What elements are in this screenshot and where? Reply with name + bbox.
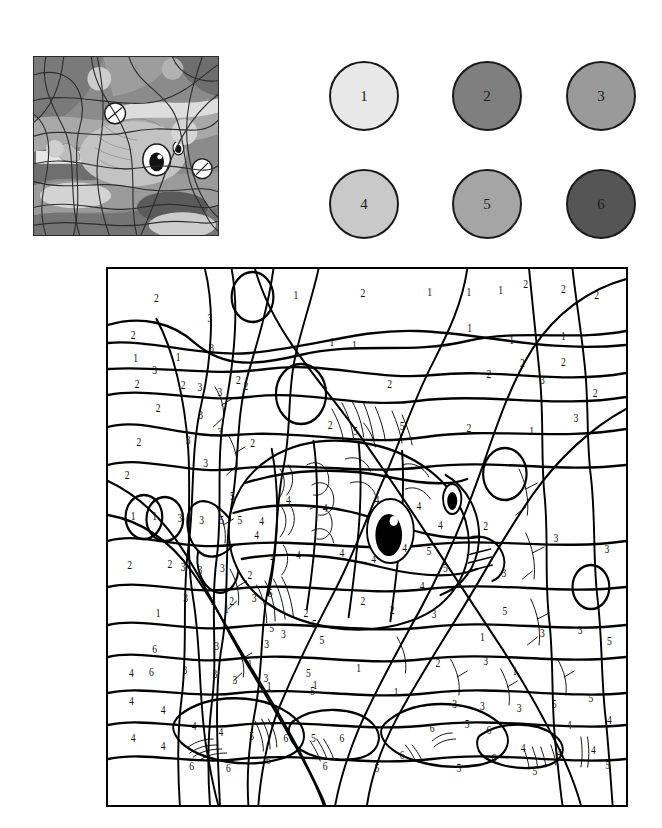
region-number: 1 — [330, 336, 335, 348]
region-number: 5 — [443, 562, 448, 574]
region-number: 6 — [492, 752, 497, 764]
region-number: 1 — [509, 334, 514, 346]
region-number: 2 — [167, 558, 172, 570]
region-number: 4 — [161, 740, 166, 752]
palette-swatch-3[interactable]: 3 — [566, 61, 636, 131]
region-number: 2 — [328, 419, 333, 431]
region-number: 3 — [211, 595, 216, 607]
region-number: 2 — [436, 657, 441, 669]
region-number: 2 — [229, 595, 234, 607]
region-number: 5 — [400, 420, 405, 432]
region-number: 4 — [323, 502, 328, 514]
region-number: 3 — [578, 624, 583, 636]
region-number: 4 — [270, 552, 275, 564]
region-number: 5 — [238, 514, 243, 526]
region-number: 4 — [192, 720, 197, 732]
region-number: 3 — [183, 592, 188, 604]
region-number: 3 — [233, 674, 238, 686]
region-number: 6 — [149, 666, 154, 678]
region-number: 3 — [177, 512, 182, 524]
region-number: 2 — [483, 520, 488, 532]
region-number: 4 — [129, 695, 134, 707]
palette-swatch-5[interactable]: 5 — [452, 169, 522, 239]
region-number: 2 — [154, 292, 159, 304]
color-key-palette: 1 2 3 4 5 6 — [318, 56, 648, 238]
region-number: 3 — [604, 543, 609, 555]
region-number: 2 — [360, 287, 365, 299]
region-number: 2 — [523, 278, 528, 290]
region-number: 3 — [203, 457, 208, 469]
region-number: 6 — [152, 643, 157, 655]
palette-swatch-4[interactable]: 4 — [329, 169, 399, 239]
fish-pupil-small — [447, 492, 457, 510]
region-number: 5 — [533, 765, 538, 777]
region-number: 4 — [340, 547, 345, 559]
region-number: 5 — [353, 425, 358, 437]
palette-swatch-1-label: 1 — [360, 88, 368, 105]
region-number: 4 — [218, 726, 223, 738]
region-number: 4 — [521, 742, 526, 754]
region-number: 2 — [593, 387, 598, 399]
region-number: 3 — [181, 561, 186, 573]
region-number: 1 — [529, 425, 534, 437]
region-number: 6 — [400, 749, 405, 761]
region-number: 3 — [209, 342, 214, 354]
palette-swatch-6[interactable]: 6 — [566, 169, 636, 239]
region-number: 5 — [465, 718, 470, 730]
region-number: 6 — [189, 760, 194, 772]
region-number: 5 — [230, 490, 235, 502]
region-number: 4 — [402, 542, 407, 554]
region-number: 1 — [267, 680, 272, 692]
coloring-board[interactable]: 2121112223211111133122223322322332222332… — [106, 267, 628, 807]
region-number: 2 — [594, 289, 599, 301]
region-number: 1 — [394, 686, 399, 698]
region-number: 1 — [356, 662, 361, 674]
region-number: 3 — [502, 567, 507, 579]
region-number: 3 — [252, 592, 257, 604]
region-number: 4 — [420, 580, 425, 592]
region-number: 1 — [131, 510, 136, 522]
region-number: 4 — [375, 494, 380, 506]
region-number: 1 — [467, 322, 472, 334]
region-number: 3 — [182, 664, 187, 676]
region-number: 3 — [431, 608, 436, 620]
region-number: 2 — [561, 356, 566, 368]
region-number: 1 — [133, 352, 138, 364]
region-number: 3 — [480, 700, 485, 712]
region-number: 3 — [208, 312, 213, 324]
region-number: 4 — [286, 494, 291, 506]
region-number: 2 — [243, 380, 248, 392]
region-number: 2 — [156, 402, 161, 414]
region-number: 2 — [487, 368, 492, 380]
region-number: 2 — [248, 569, 253, 581]
region-number: 6 — [430, 722, 435, 734]
region-number: 5 — [552, 698, 557, 710]
region-number: 2 — [467, 422, 472, 434]
region-number: 3 — [186, 434, 191, 446]
region-number: 1 — [152, 510, 157, 522]
region-number: 5 — [306, 667, 311, 679]
region-number: 5 — [426, 545, 431, 557]
region-number: 2 — [135, 378, 140, 390]
palette-swatch-2[interactable]: 2 — [452, 61, 522, 131]
region-number: 1 — [467, 286, 472, 298]
region-number: 5 — [319, 634, 324, 646]
region-number: 3 — [264, 638, 269, 650]
palette-swatch-5-label: 5 — [483, 196, 491, 213]
region-number: 1 — [427, 286, 432, 298]
region-number: 6 — [266, 754, 271, 766]
region-number: 3 — [573, 412, 578, 424]
region-number: 3 — [198, 564, 203, 576]
region-number: 2 — [390, 604, 395, 616]
region-number: 1 — [176, 351, 181, 363]
region-number: 2 — [127, 559, 132, 571]
region-number: 3 — [213, 668, 218, 680]
coloring-line-art: 2121112223211111133122223322322332222332… — [108, 269, 626, 805]
region-number: 4 — [254, 529, 259, 541]
region-number: 1 — [313, 679, 318, 691]
region-number: 6 — [340, 732, 345, 744]
region-number: 4 — [296, 549, 301, 561]
region-number: 4 — [591, 744, 596, 756]
region-number: 6 — [487, 724, 492, 736]
palette-swatch-1[interactable]: 1 — [329, 61, 399, 131]
